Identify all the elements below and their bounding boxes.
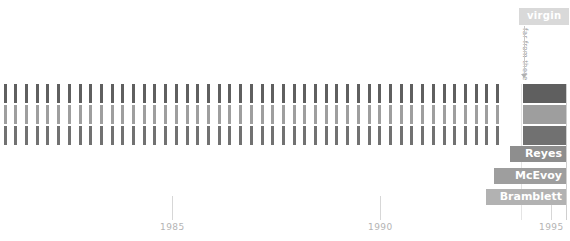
strip-tick bbox=[432, 126, 435, 145]
strip-tick bbox=[389, 126, 392, 145]
strip-tick bbox=[14, 84, 17, 103]
strip-tick bbox=[239, 126, 242, 145]
strip-tick bbox=[271, 84, 274, 103]
strip-tick bbox=[464, 105, 467, 124]
strip-tick bbox=[4, 126, 7, 145]
strip-tick bbox=[485, 105, 488, 124]
legend-label-bramblett[interactable]: Bramblett bbox=[486, 189, 566, 205]
strip-tick bbox=[175, 105, 178, 124]
legend-swatch-reyes[interactable] bbox=[523, 84, 566, 103]
strip-tick bbox=[186, 84, 189, 103]
strip-tick bbox=[196, 105, 199, 124]
strip-tick bbox=[464, 84, 467, 103]
strip-tick bbox=[68, 84, 71, 103]
strip-tick bbox=[378, 84, 381, 103]
strip-tick bbox=[485, 84, 488, 103]
legend-swatch-bramblett[interactable] bbox=[523, 126, 566, 145]
strip-tick bbox=[432, 84, 435, 103]
strip-tick bbox=[335, 84, 338, 103]
strip-tick bbox=[368, 126, 371, 145]
strip-tick bbox=[14, 105, 17, 124]
strip-tick bbox=[79, 126, 82, 145]
strip-tick bbox=[143, 126, 146, 145]
strip-tick bbox=[293, 105, 296, 124]
strip-tick bbox=[293, 126, 296, 145]
strip-tick bbox=[325, 126, 328, 145]
strip-tick bbox=[378, 105, 381, 124]
strip-tick bbox=[57, 84, 60, 103]
strip-tick bbox=[121, 126, 124, 145]
strip-tick bbox=[57, 105, 60, 124]
strip-tick bbox=[68, 126, 71, 145]
strip-tick bbox=[132, 105, 135, 124]
strip-tick bbox=[25, 84, 28, 103]
strip-tick bbox=[464, 126, 467, 145]
strip-tick bbox=[314, 84, 317, 103]
strip-tick bbox=[132, 126, 135, 145]
strip-tick bbox=[400, 84, 403, 103]
strip-tick bbox=[46, 126, 49, 145]
strip-tick bbox=[346, 84, 349, 103]
strip-row-reyes bbox=[0, 84, 521, 103]
chart-canvas: Reyes McEvoy Bramblett virgin far from t… bbox=[0, 0, 570, 241]
strip-tick bbox=[410, 126, 413, 145]
strip-tick bbox=[496, 84, 499, 103]
strip-tick bbox=[485, 126, 488, 145]
strip-tick bbox=[368, 105, 371, 124]
strip-row-bramblett bbox=[0, 126, 521, 145]
strip-tick bbox=[228, 105, 231, 124]
strip-tick bbox=[239, 84, 242, 103]
strip-tick bbox=[100, 84, 103, 103]
strip-tick bbox=[89, 105, 92, 124]
strip-tick bbox=[357, 84, 360, 103]
strip-tick bbox=[4, 105, 7, 124]
strip-tick bbox=[164, 84, 167, 103]
strip-tick bbox=[196, 84, 199, 103]
strip-tick bbox=[207, 105, 210, 124]
annotation-badge-virgin: virgin bbox=[519, 8, 569, 25]
strip-tick bbox=[207, 84, 210, 103]
strip-tick bbox=[250, 126, 253, 145]
strip-tick bbox=[335, 126, 338, 145]
right-axis-rule bbox=[566, 84, 567, 220]
strip-tick bbox=[196, 126, 199, 145]
strip-tick bbox=[389, 84, 392, 103]
strip-tick bbox=[357, 126, 360, 145]
strip-tick bbox=[25, 105, 28, 124]
strip-tick bbox=[282, 105, 285, 124]
axis-label-1995: 1995 bbox=[539, 222, 564, 232]
strip-tick bbox=[121, 84, 124, 103]
strip-tick bbox=[346, 105, 349, 124]
strip-tick bbox=[335, 105, 338, 124]
strip-tick bbox=[239, 105, 242, 124]
legend-label-reyes[interactable]: Reyes bbox=[510, 146, 566, 162]
strip-tick bbox=[443, 126, 446, 145]
strip-tick bbox=[368, 84, 371, 103]
strip-tick bbox=[325, 105, 328, 124]
annotation-leader-line bbox=[524, 26, 525, 74]
strip-tick bbox=[175, 126, 178, 145]
strip-tick bbox=[475, 126, 478, 145]
strip-tick bbox=[14, 126, 17, 145]
strip-tick bbox=[111, 84, 114, 103]
annotation-arrow-icon bbox=[521, 74, 527, 78]
strip-tick bbox=[325, 84, 328, 103]
strip-tick bbox=[496, 105, 499, 124]
strip-tick bbox=[164, 105, 167, 124]
strip-tick bbox=[153, 84, 156, 103]
strip-tick bbox=[271, 126, 274, 145]
strip-tick bbox=[228, 126, 231, 145]
strip-tick bbox=[303, 105, 306, 124]
strip-row-mcevoy bbox=[0, 105, 521, 124]
strip-tick bbox=[314, 105, 317, 124]
strip-tick bbox=[378, 126, 381, 145]
strip-tick bbox=[410, 105, 413, 124]
legend-swatch-mcevoy[interactable] bbox=[523, 105, 566, 124]
legend-label-mcevoy[interactable]: McEvoy bbox=[494, 168, 566, 184]
gridline-1990 bbox=[380, 196, 381, 220]
strip-tick bbox=[432, 105, 435, 124]
strip-tick bbox=[186, 105, 189, 124]
strip-tick bbox=[282, 84, 285, 103]
strip-tick bbox=[4, 84, 7, 103]
strip-tick bbox=[443, 105, 446, 124]
